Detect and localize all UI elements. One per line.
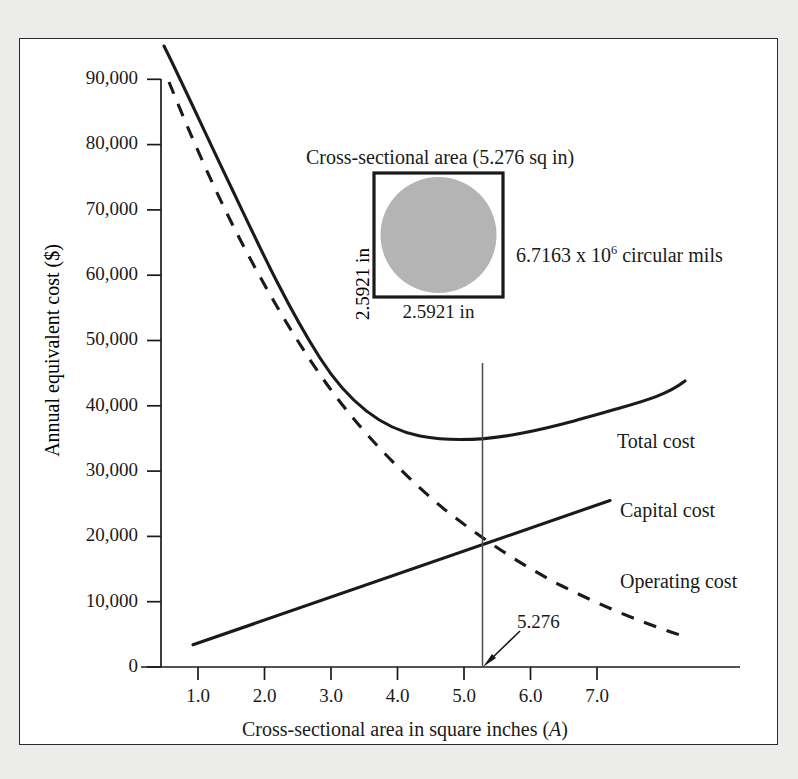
inset-caption: Cross-sectional area (5.276 sq in) — [306, 146, 574, 169]
curve-label-operating-cost: Operating cost — [620, 570, 737, 593]
xtick-label-1: 1.0 — [163, 685, 233, 707]
y-axis-title-wrapper: Annual equivalent cost ($) — [41, 201, 64, 501]
inset-bottom-dimension: 2.5921 in — [374, 301, 503, 323]
xtick-label-6: 6.0 — [496, 685, 566, 707]
ytick-label-10000: 10,000 — [20, 590, 138, 612]
inset-cross-section-diagram — [374, 173, 503, 297]
ytick-label-70000: 70,000 — [20, 198, 138, 220]
ytick-label-20000: 20,000 — [20, 524, 138, 546]
x-axis-title-pre: Cross-sectional area in square inches ( — [242, 718, 549, 740]
inset-circular-mils-note: 6.7163 x 106 circular mils — [516, 244, 723, 267]
ytick-label-80000: 80,000 — [20, 132, 138, 154]
inset-left-dimension: 2.5921 in — [352, 248, 373, 320]
x-tick-marks — [198, 667, 597, 680]
ytick-label-30000: 30,000 — [20, 459, 138, 481]
xtick-label-5: 5.0 — [429, 685, 499, 707]
curve-label-capital-cost: Capital cost — [620, 499, 715, 522]
y-tick-marks — [147, 79, 161, 667]
inset-conductor-circle — [381, 177, 497, 293]
x-axis-title-variable: A — [549, 718, 561, 740]
ytick-label-90000: 90,000 — [20, 67, 138, 89]
inset-left-dimension-wrapper: 2.5921 in — [352, 224, 374, 344]
circular-mils-unit: circular mils — [617, 244, 723, 266]
ytick-label-50000: 50,000 — [20, 328, 138, 350]
y-axis-title: Annual equivalent cost ($) — [41, 244, 63, 457]
figure-frame: 90,000 80,000 70,000 60,000 50,000 40,00… — [19, 38, 778, 745]
ytick-label-0: 0 — [20, 655, 138, 677]
optimum-arrow-icon — [483, 631, 520, 667]
x-axis-title-post: ) — [561, 718, 568, 740]
xtick-label-7: 7.0 — [562, 685, 632, 707]
xtick-label-2: 2.0 — [230, 685, 300, 707]
ytick-label-60000: 60,000 — [20, 263, 138, 285]
xtick-label-4: 4.0 — [363, 685, 433, 707]
optimum-marker-label: 5.276 — [517, 611, 560, 633]
circular-mils-mantissa: 6.7163 x 10 — [516, 244, 611, 266]
x-axis-title: Cross-sectional area in square inches (A… — [170, 718, 640, 741]
curve-label-total-cost: Total cost — [617, 430, 695, 453]
page-canvas: 90,000 80,000 70,000 60,000 50,000 40,00… — [0, 0, 798, 779]
xtick-label-3: 3.0 — [296, 685, 366, 707]
ytick-label-40000: 40,000 — [20, 394, 138, 416]
